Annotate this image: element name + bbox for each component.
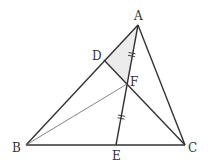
label-b: B — [12, 141, 21, 155]
label-e: E — [112, 149, 121, 163]
label-a: A — [133, 9, 143, 23]
geometry-diagram: A B C D E F — [0, 0, 208, 167]
segment-ca — [138, 25, 185, 145]
segment-dc — [104, 60, 185, 145]
segment-bf — [26, 84, 127, 145]
segment-ab — [26, 25, 138, 145]
label-f: F — [130, 75, 138, 89]
label-c: C — [188, 141, 197, 155]
label-d: D — [92, 49, 102, 63]
diagram-canvas: A B C D E F — [0, 0, 208, 167]
